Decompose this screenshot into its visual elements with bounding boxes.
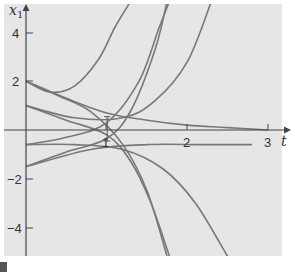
x-tick-label-3: 3 <box>264 135 271 150</box>
y-tick-label-neg2: −2 <box>7 172 22 187</box>
x-tick-label-2: 2 <box>183 135 190 150</box>
x-tick-label-1: 1 <box>102 135 109 150</box>
corner-marker <box>0 262 7 272</box>
x-axis-label: t <box>281 133 287 149</box>
chart: 1 2 3 t 4 2 −2 −4 x1 <box>0 0 295 272</box>
y-tick-label-neg4: −4 <box>7 221 22 236</box>
y-tick-label-4: 4 <box>12 26 19 41</box>
y-tick-label-2: 2 <box>12 74 19 89</box>
